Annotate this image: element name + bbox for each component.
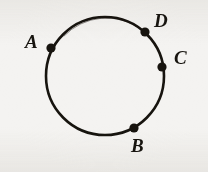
point-label-a: A [25,32,38,51]
point-dot-c [157,62,166,71]
point-dot-b [129,123,138,132]
circle-ink-thickening-top [64,18,141,36]
point-dot-d [140,27,149,36]
point-label-b: B [131,136,144,155]
point-dot-a [46,43,55,52]
point-label-c: C [174,48,187,67]
circle-ink-thickening [46,69,116,135]
point-label-d: D [154,11,168,30]
figure-canvas: A D C B [0,0,208,172]
circle-diagram [0,0,208,172]
